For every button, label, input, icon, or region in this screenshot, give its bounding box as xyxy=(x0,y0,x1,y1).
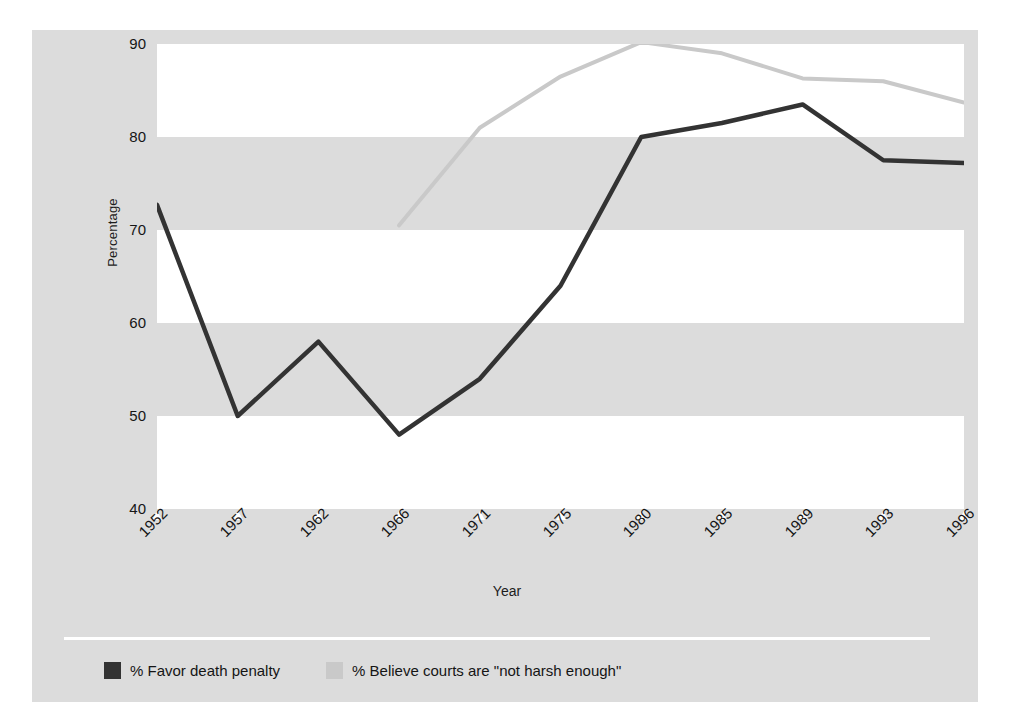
y-axis-tick-label: 90 xyxy=(104,36,146,51)
legend-swatch-icon xyxy=(104,662,121,679)
y-axis-tick-label: 50 xyxy=(104,408,146,423)
legend-swatch-icon xyxy=(326,662,343,679)
y-axis-tick-label: 70 xyxy=(104,222,146,237)
y-axis-tick-label: 60 xyxy=(104,315,146,330)
series-line xyxy=(157,104,964,434)
legend-divider xyxy=(64,637,930,640)
legend-item[interactable]: % Favor death penalty xyxy=(104,662,280,679)
chart-root: Percentage 405060708090 1952195719621966… xyxy=(0,0,1014,718)
legend-item[interactable]: % Believe courts are "not harsh enough" xyxy=(326,662,621,679)
chart-legend: % Favor death penalty% Believe courts ar… xyxy=(104,662,621,679)
x-axis-title: Year xyxy=(0,583,1014,599)
legend-label: % Believe courts are "not harsh enough" xyxy=(352,662,621,679)
series-line xyxy=(399,44,964,225)
plot-area xyxy=(157,44,964,509)
series-lines xyxy=(157,44,964,509)
y-axis-tick-label: 80 xyxy=(104,129,146,144)
legend-label: % Favor death penalty xyxy=(130,662,280,679)
y-axis-tick-label: 40 xyxy=(104,501,146,516)
